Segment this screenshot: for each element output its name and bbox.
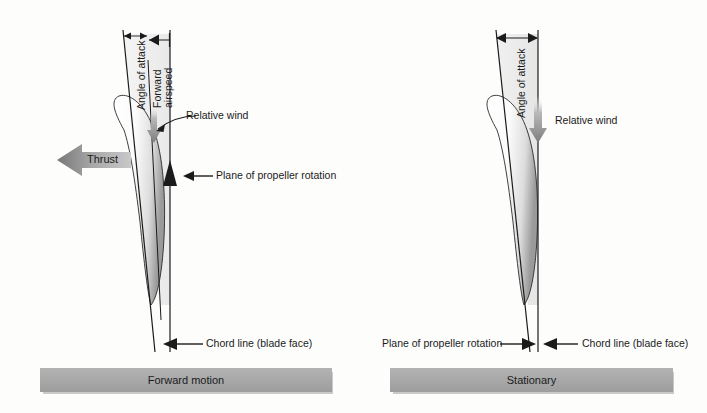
plane-of-rotation-leader <box>500 338 536 350</box>
relative-wind-label-right: Relative wind <box>555 115 617 127</box>
angle-of-attack-label-left: Angle of attack <box>136 41 148 110</box>
plane-of-rotation-label-left: Plane of propeller rotation <box>216 170 336 182</box>
diagram-vector-layer <box>0 0 707 413</box>
chord-line-label-left: Chord line (blade face) <box>206 338 312 350</box>
chord-line-label-right: Chord line (blade face) <box>582 338 688 350</box>
angle-of-attack-label-right: Angle of attack <box>516 49 528 118</box>
caption-bar-forward-motion: Forward motion <box>40 368 332 392</box>
caption-forward-motion: Forward motion <box>148 374 224 386</box>
thrust-label: Thrust <box>87 153 118 165</box>
caption-stationary: Stationary <box>507 374 557 386</box>
caption-bar-stationary: Stationary <box>390 368 673 392</box>
relative-wind-label-left: Relative wind <box>186 110 248 122</box>
chord-line-leader <box>163 338 203 350</box>
chord-line-leader <box>543 338 578 350</box>
forward-airspeed-label-line2: airspeed <box>163 68 175 108</box>
plane-of-rotation-label-right: Plane of propeller rotation <box>382 338 502 350</box>
plane-of-rotation-leader <box>183 171 213 181</box>
propeller-angle-of-attack-figure: Angle of attack Forward airspeed Relativ… <box>0 0 707 413</box>
panel-stationary <box>487 30 578 352</box>
